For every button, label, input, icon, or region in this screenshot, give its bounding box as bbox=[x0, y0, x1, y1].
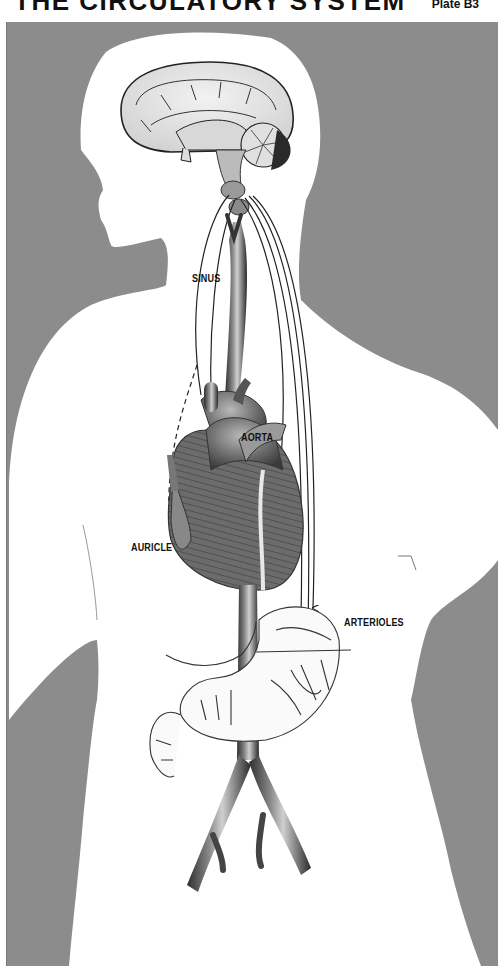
page-header: THE CIRCULATORY SYSTEM Plate B3 bbox=[0, 0, 497, 22]
label-aorta: AORTA bbox=[241, 431, 273, 443]
label-auricle: AURICLE bbox=[131, 541, 172, 553]
page-title: THE CIRCULATORY SYSTEM bbox=[14, 0, 406, 17]
circulatory-illustration bbox=[6, 22, 498, 966]
plate-number: Plate B3 bbox=[432, 0, 479, 11]
illustration-panel: SINUS AORTA AURICLE ARTERIOLES bbox=[6, 22, 498, 966]
label-arterioles: ARTERIOLES bbox=[344, 616, 404, 628]
label-sinus: SINUS bbox=[192, 272, 220, 284]
